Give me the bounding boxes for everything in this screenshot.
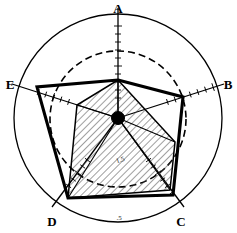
radar-chart-canvas: A B C D E 1.5 .5 <box>0 0 237 233</box>
origin-dot <box>112 112 125 125</box>
radar-chart: A B C D E 1.5 .5 <box>0 0 237 233</box>
axis-label-c: C <box>176 214 185 229</box>
inner-hatched-polygon <box>68 80 175 198</box>
radial-tick-label-outer: .5 <box>116 214 122 222</box>
axis-label-d: D <box>47 214 56 229</box>
axis-label-e: E <box>6 77 15 92</box>
axis-label-a: A <box>113 1 123 16</box>
axis-label-b: B <box>224 77 233 92</box>
